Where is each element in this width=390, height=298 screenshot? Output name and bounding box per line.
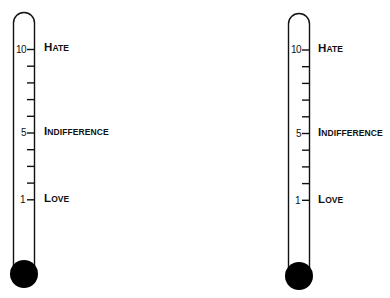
scale-number-1: 1 bbox=[11, 195, 25, 205]
label-love: Love bbox=[318, 193, 343, 206]
scale-number-5: 5 bbox=[287, 129, 301, 139]
label-hate: Hate bbox=[318, 42, 343, 55]
scale-number-10: 10 bbox=[287, 45, 301, 55]
thermometer-right: 10 5 1 Hate Indifference Love bbox=[275, 0, 390, 298]
label-hate: Hate bbox=[44, 41, 69, 54]
label-indifference: Indifference bbox=[318, 126, 383, 139]
thermometer-left: 10 5 1 Hate Indifference Love bbox=[0, 0, 120, 298]
thermometer-bulb-icon bbox=[10, 260, 38, 288]
label-love: Love bbox=[44, 192, 69, 205]
thermometer-bulb-icon bbox=[285, 262, 313, 290]
scale-number-10: 10 bbox=[12, 45, 26, 55]
label-indifference: Indifference bbox=[44, 125, 109, 138]
scale-number-5: 5 bbox=[12, 128, 26, 138]
scale-number-1: 1 bbox=[286, 196, 300, 206]
